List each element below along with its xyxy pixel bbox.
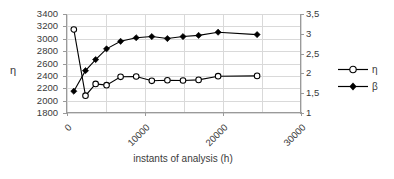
y-axis-right-tick-label: 2 bbox=[306, 68, 311, 78]
y-axis-right-tick-label: 3,5 bbox=[306, 9, 319, 19]
gridline-horizontal bbox=[67, 113, 300, 114]
legend-marker-open-circle bbox=[336, 61, 370, 78]
data-point-open-circle bbox=[196, 77, 202, 83]
data-point-open-circle bbox=[93, 81, 99, 87]
data-point-filled-diamond bbox=[149, 33, 155, 39]
x-axis-tick-label: 0 bbox=[0, 122, 73, 179]
x-axis-tick-label: 20000 bbox=[149, 122, 229, 179]
data-point-open-circle bbox=[71, 27, 77, 33]
y-axis-left-tick-label: 2800 bbox=[37, 46, 58, 56]
data-point-open-circle bbox=[149, 78, 155, 84]
data-point-filled-diamond bbox=[196, 32, 202, 38]
data-point-filled-diamond bbox=[215, 29, 221, 35]
chart-root: 180020002200240026002800300032003400 11,… bbox=[0, 0, 394, 179]
data-point-filled-diamond bbox=[118, 38, 124, 44]
x-axis-tick-labels: 0100002000030000 bbox=[0, 117, 340, 151]
x-axis-tick-label: 10000 bbox=[71, 122, 151, 179]
chart-plot-wrapper: 180020002200240026002800300032003400 11,… bbox=[0, 0, 394, 179]
legend-item-beta[interactable]: β bbox=[336, 78, 392, 95]
chart-legend: η β bbox=[336, 61, 392, 95]
legend-marker-filled-diamond bbox=[336, 78, 370, 95]
data-point-open-circle bbox=[118, 74, 124, 80]
data-point-filled-diamond bbox=[254, 31, 260, 37]
data-point-filled-diamond bbox=[133, 35, 139, 41]
data-point-open-circle bbox=[83, 93, 89, 99]
gridline-vertical bbox=[301, 14, 302, 112]
right-axis-spine bbox=[300, 14, 301, 113]
data-point-open-circle bbox=[165, 77, 171, 83]
y-axis-left-tick-label: 2200 bbox=[37, 83, 58, 93]
data-point-open-circle bbox=[104, 82, 110, 88]
y-axis-left-tick-label: 2600 bbox=[37, 59, 58, 69]
y-tick-right bbox=[300, 113, 304, 114]
y-axis-right-tick-label: 3 bbox=[306, 29, 311, 39]
legend-label-eta: η bbox=[372, 64, 378, 75]
data-point-open-circle bbox=[254, 73, 260, 79]
y-axis-left-tick-label: 3400 bbox=[37, 9, 58, 19]
x-axis-tick-label: 30000 bbox=[227, 122, 307, 179]
data-series-layer bbox=[66, 14, 300, 113]
y-axis-left-tick-label: 3200 bbox=[37, 21, 58, 31]
y-axis-left-tick-label: 2000 bbox=[37, 96, 58, 106]
data-point-open-circle bbox=[215, 73, 221, 79]
y-axis-right-tick-label: 1,5 bbox=[306, 88, 319, 98]
y-axis-right-tick-label: 2,5 bbox=[306, 49, 319, 59]
y-axis-left-tick-label: 3000 bbox=[37, 34, 58, 44]
data-point-filled-diamond bbox=[180, 33, 186, 39]
y-axis-title: η bbox=[10, 64, 16, 76]
legend-item-eta[interactable]: η bbox=[336, 61, 392, 78]
data-point-filled-diamond bbox=[71, 88, 77, 94]
data-point-open-circle bbox=[180, 78, 186, 84]
data-point-open-circle bbox=[133, 74, 139, 80]
data-point-filled-diamond bbox=[164, 35, 170, 41]
x-axis-title: instants of analysis (h) bbox=[66, 153, 300, 164]
legend-label-beta: β bbox=[372, 81, 378, 92]
y-axis-left-tick-label: 2400 bbox=[37, 71, 58, 81]
